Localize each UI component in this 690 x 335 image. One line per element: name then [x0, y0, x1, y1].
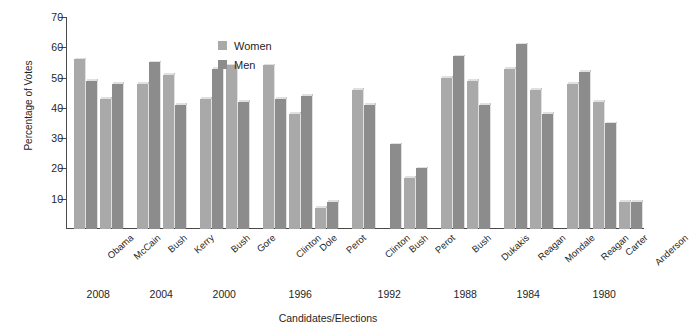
- bar-women: [100, 99, 111, 229]
- candidate-label: Bush: [166, 232, 189, 255]
- year-label: 1980: [593, 288, 616, 300]
- candidate-label: Gore: [255, 232, 278, 254]
- bars-layer: [66, 17, 644, 229]
- y-axis-tick-label: 20: [51, 162, 63, 174]
- candidate-label: Dukakis: [499, 232, 531, 263]
- y-axis-tick-label: 50: [51, 72, 63, 84]
- bar-women: [467, 81, 478, 229]
- bar-women: [352, 90, 363, 229]
- bar-men: [579, 72, 590, 229]
- bar-men: [212, 69, 223, 230]
- bar-women: [404, 178, 415, 229]
- x-axis-year-labels: 20082004200019961992198819841980: [66, 288, 644, 304]
- year-label: 2004: [150, 288, 173, 300]
- candidate-label: Dole: [317, 232, 339, 253]
- y-axis-tick-label: 40: [51, 102, 63, 114]
- legend-label-women: Women: [234, 40, 272, 52]
- legend-item-women: Women: [218, 36, 272, 55]
- bar-women: [593, 102, 604, 229]
- x-axis-candidate-labels: ObamaMcCainBushKerryBushGoreClintonDoleP…: [66, 232, 644, 284]
- bar-women: [315, 208, 326, 229]
- candidate-label: Perot: [433, 232, 457, 255]
- plot-area: 10203040506070 Women Men: [66, 17, 644, 229]
- bar-women: [200, 99, 211, 229]
- bar-men: [605, 123, 616, 229]
- bar-women: [289, 114, 300, 229]
- legend: Women Men: [218, 36, 272, 74]
- candidate-label: Anderson: [653, 232, 690, 267]
- bar-men: [327, 202, 338, 229]
- candidate-label: Bush: [470, 232, 493, 255]
- bar-women: [163, 75, 174, 229]
- bar-women: [74, 59, 85, 229]
- bar-women: [567, 84, 578, 229]
- bar-men: [149, 62, 160, 229]
- bar-men: [364, 105, 375, 229]
- bar-men: [453, 56, 464, 229]
- candidate-label: McCain: [132, 232, 163, 262]
- x-axis-title: Candidates/Elections: [0, 312, 656, 324]
- year-label: 1988: [454, 288, 477, 300]
- bar-men: [112, 84, 123, 229]
- legend-swatch-women-icon: [218, 41, 227, 50]
- bar-women: [441, 78, 452, 229]
- bar-women: [137, 84, 148, 229]
- bar-men: [238, 102, 249, 229]
- bar-men: [390, 144, 401, 229]
- bar-men: [301, 96, 312, 229]
- bar-women: [504, 69, 515, 230]
- bar-men: [479, 105, 490, 229]
- legend-label-men: Men: [234, 59, 255, 71]
- y-axis-tick-label: 10: [51, 193, 63, 205]
- year-label: 1984: [517, 288, 540, 300]
- bar-men: [631, 202, 642, 229]
- candidate-label: Perot: [344, 232, 368, 255]
- legend-item-men: Men: [218, 55, 272, 74]
- y-axis-title: Percentage of Votes: [23, 26, 34, 186]
- year-label: 2008: [87, 288, 110, 300]
- candidate-label: Bush: [407, 232, 430, 255]
- y-axis-tick-label: 70: [51, 11, 63, 23]
- bar-men: [516, 44, 527, 229]
- year-label: 2000: [213, 288, 236, 300]
- bar-men: [175, 105, 186, 229]
- bar-men: [416, 168, 427, 229]
- bar-women: [263, 65, 274, 229]
- bar-women: [619, 202, 630, 229]
- candidate-label: Obama: [105, 232, 136, 261]
- legend-swatch-men-icon: [218, 60, 227, 69]
- bar-men: [275, 99, 286, 229]
- bar-men: [86, 81, 97, 229]
- candidate-label: Mondale: [563, 232, 597, 265]
- candidate-label: Bush: [229, 232, 252, 255]
- bar-women: [226, 65, 237, 229]
- year-label: 1996: [289, 288, 312, 300]
- candidate-label: Kerry: [192, 232, 216, 255]
- bar-women: [530, 90, 541, 229]
- bar-men: [542, 114, 553, 229]
- year-label: 1992: [378, 288, 401, 300]
- y-axis-tick-label: 30: [51, 132, 63, 144]
- y-axis-tick-label: 60: [51, 41, 63, 53]
